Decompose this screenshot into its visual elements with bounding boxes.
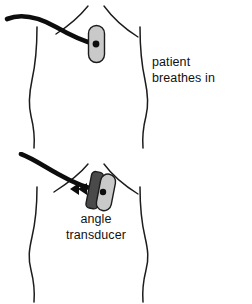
breathing-transducer-diagram: patient breathes in [0,0,252,304]
cable-connector-dot [93,41,100,48]
rib-curve-right [104,6,138,37]
torso-right-outline [140,27,148,148]
torso-left-outline [29,187,37,302]
torso-right-outline [140,187,148,302]
angle-transducer-label: angle transducer [40,212,152,243]
caption-breathes-in: patient breathes in [152,55,215,86]
angle-indicator-arrow-icon [70,183,87,195]
cable-connector-dot [100,189,106,195]
transducer-cable [7,16,95,44]
torso-left-outline [29,27,37,148]
panel-breathes-in: patient breathes in [0,0,252,152]
